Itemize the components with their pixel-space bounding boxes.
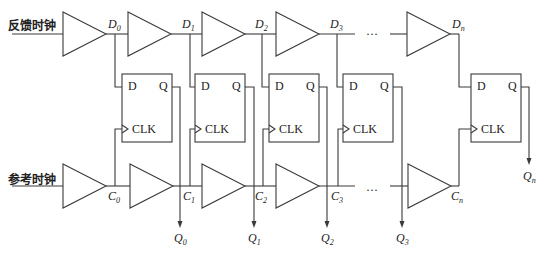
d-input-wire [337,34,343,87]
ff-d-pin-label: D [128,79,137,93]
feedback-delay-buffer [202,12,245,56]
ff-q-pin-label: Q [232,79,241,93]
c-tap-label: C2 [255,189,267,205]
q-output-wire [393,87,402,222]
ff-q-pin-label: Q [380,79,389,93]
reference-delay-buffer [130,164,173,208]
ff-clk-pin-label: CLK [205,122,229,136]
ff-clk-pin-label: CLK [132,122,156,136]
output-arrow-icon [252,221,257,228]
output-arrow-icon [400,221,405,228]
bottom-ellipsis: ··· [366,183,378,197]
ff-clk-pin-label: CLK [481,122,505,136]
feedback-delay-buffer [276,12,319,56]
reference-delay-buffer-n [408,164,451,208]
q-output-wire [319,87,327,222]
d-input-wire [459,34,471,87]
clk-input-wire [190,129,195,186]
clk-input-wire [115,129,122,186]
output-arrow-icon [178,221,183,228]
q-output-wire [245,87,254,222]
d-tap-label: D2 [254,17,268,33]
d-tap-label: D0 [107,17,121,33]
ff-d-pin-label: D [477,79,486,93]
d-tap-label: Dn [451,17,465,33]
feedback-delay-buffer [128,12,171,56]
clk-input-wire [263,129,269,186]
ff-d-pin-label: D [349,79,358,93]
ff-q-pin-label: Q [306,79,315,93]
q-output-wire [521,87,529,159]
d-input-wire [262,34,269,87]
clk-input-wire [338,129,343,186]
output-arrow-icon [527,158,532,165]
q-output-wire [172,87,180,222]
reference-delay-buffer [202,164,245,208]
c-tap-label: C3 [331,189,343,205]
q-output-label: Q2 [321,231,334,247]
ff-d-pin-label: D [201,79,210,93]
time-to-digital-converter-diagram: 反馈时钟 参考时钟 ··· ··· DQCLKDQCLKDQCLKDQCLKDQ… [0,0,544,255]
output-arrow-icon [325,221,330,228]
d-input-wire [115,34,122,87]
c-tap-label: C1 [183,189,195,205]
ff-q-pin-label: Q [159,79,168,93]
reference-delay-buffer [276,164,319,208]
c-tap-label: Cn [451,189,463,205]
reference-clock-label: 参考时钟 [8,172,56,187]
c-tap-label: C0 [108,189,120,205]
d-input-wire [190,34,195,87]
reference-delay-buffer [63,164,106,208]
ff-q-pin-label: Q [508,79,517,93]
clk-input-wire [459,129,471,186]
top-ellipsis: ··· [366,27,378,41]
q-output-label: Q0 [174,231,187,247]
d-tap-label: D3 [329,17,343,33]
q-output-label: Q1 [248,231,261,247]
feedback-clock-label: 反馈时钟 [8,18,56,33]
ff-clk-pin-label: CLK [279,122,303,136]
feedback-delay-buffer [63,12,106,56]
d-tap-label: D1 [181,17,195,33]
ff-d-pin-label: D [275,79,284,93]
q-output-label: Q3 [396,231,409,247]
q-output-label: Qn [523,169,536,185]
feedback-delay-buffer-n [407,12,450,56]
ff-clk-pin-label: CLK [353,122,377,136]
